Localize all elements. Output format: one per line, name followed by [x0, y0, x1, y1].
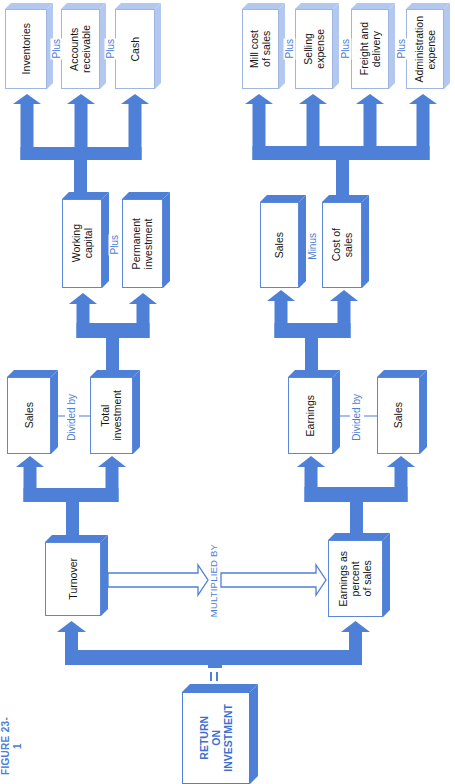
box-label: Turnover [67, 558, 79, 600]
box-label: Selling expense [302, 29, 326, 69]
box-depth-side [299, 195, 306, 288]
multiply-arrow-right [221, 565, 326, 595]
equals-sign-bar [210, 672, 212, 681]
box-earnings: Earnings [288, 370, 340, 454]
box-depth-top [182, 684, 258, 692]
box-label: Permanent investment [130, 218, 154, 269]
box-label: RETURN ON INVESTMENT [198, 704, 234, 772]
box-sales-divided: Sales [7, 370, 58, 454]
box-return-on-investment: RETURN ON INVESTMENT [182, 684, 258, 784]
box-cash: Cash [115, 3, 161, 89]
equals-sign-bar [216, 672, 218, 681]
operator-divided-by: Divided by [65, 386, 79, 448]
box-label: Cost of sales [330, 228, 354, 261]
box-selling-expense: Selling expense [295, 3, 339, 89]
box-label: Sales [273, 232, 285, 258]
box-depth-top [45, 535, 108, 542]
box-depth-top [322, 195, 369, 202]
box-sales-minus: Sales [260, 195, 306, 288]
branch-turnover [16, 456, 126, 536]
multiply-arrow-left [108, 565, 208, 595]
branch-root [57, 621, 370, 681]
box-inventories: Inventories [5, 3, 53, 89]
box-depth-top [7, 370, 58, 377]
box-label: Accounts receivable [68, 25, 92, 73]
box-mill-cost-of-sales: Mill cost of sales [242, 3, 285, 89]
box-label: Inventories [20, 23, 32, 74]
box-label: Freight and delivery [358, 22, 382, 75]
box-label: Sales [23, 402, 35, 428]
box-accounts-receivable: Accounts receivable [61, 3, 106, 89]
box-depth-top [90, 370, 140, 377]
box-permanent-investment: Permanent investment [122, 192, 170, 288]
branch-earnings [267, 290, 358, 371]
figure-label: FIGURE 23-1 [4, 715, 19, 777]
box-depth-side [333, 370, 340, 454]
box-label: Cash [129, 37, 141, 62]
branch-earnings-pct [297, 456, 415, 534]
box-depth-top [377, 370, 427, 377]
box-label: Administration expense [413, 16, 437, 83]
box-depth-side [163, 192, 170, 288]
box-depth-top [260, 195, 306, 202]
operator-plus: Plus [50, 30, 64, 68]
box-depth-top [328, 533, 390, 540]
box-label: Working capital [70, 224, 94, 262]
box-depth-side [250, 684, 258, 784]
box-depth-top [62, 192, 109, 199]
operator-divided-by: Divided by [350, 386, 364, 448]
box-label: Sales [392, 402, 404, 428]
box-label: Earnings [304, 395, 316, 436]
branch-working-capital [13, 94, 149, 193]
branch-cost-of-sales [245, 94, 437, 196]
operator-plus: Plus [283, 30, 297, 68]
box-depth-side [420, 370, 427, 454]
branch-total-investment [69, 293, 157, 371]
box-depth-side [444, 3, 450, 89]
operator-plus: Plus [339, 30, 353, 68]
box-depth-side [362, 195, 369, 288]
box-label: Earnings as percent of sales [337, 551, 373, 606]
operator-plus: Plus [104, 30, 118, 68]
box-depth-top [288, 370, 340, 377]
box-label: Mill cost of sales [248, 30, 272, 68]
box-turnover: Turnover [45, 535, 108, 616]
box-working-capital: Working capital [62, 192, 109, 288]
box-depth-side [383, 533, 390, 617]
box-administration-expense: Administration expense [406, 3, 450, 89]
box-depth-side [101, 535, 108, 616]
box-depth-side [133, 370, 140, 454]
operator-plus: Plus [395, 30, 409, 68]
box-freight-and-delivery: Freight and delivery [351, 3, 395, 89]
multiplied-by-label: MULTIPLIED BY [207, 540, 221, 622]
box-sales-earnings-divisor: Sales [377, 370, 427, 454]
box-earnings-as-percent-of-sales: Earnings as percent of sales [328, 533, 390, 617]
box-depth-side [51, 370, 58, 454]
box-label: Total investment [99, 390, 123, 441]
box-cost-of-sales: Cost of sales [322, 195, 369, 288]
box-depth-side [155, 3, 161, 89]
operator-minus: Minus [306, 226, 320, 266]
box-total-investment: Total investment [90, 370, 140, 454]
box-depth-top [122, 192, 170, 199]
operator-plus: Plus [108, 226, 122, 264]
